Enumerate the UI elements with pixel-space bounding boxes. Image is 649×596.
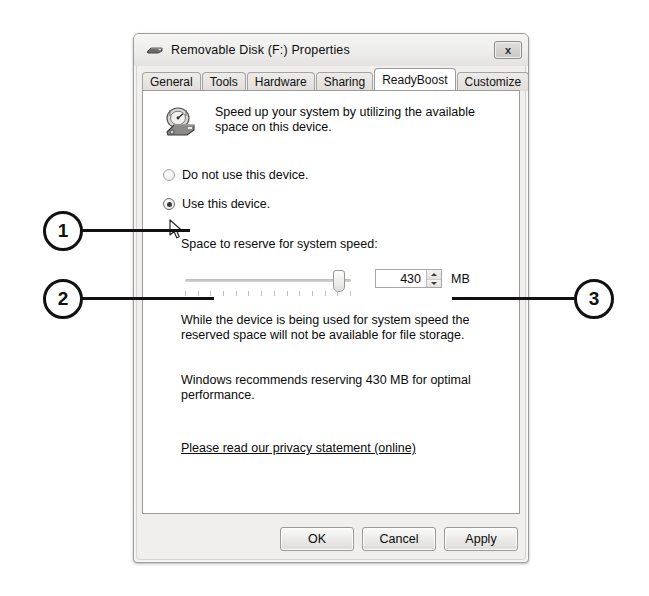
tab-hardware-label: Hardware	[255, 75, 307, 89]
tab-sharing-label: Sharing	[324, 75, 365, 89]
readyboost-header: Speed up your system by utilizing the av…	[161, 105, 501, 142]
space-spinner-value[interactable]: 430	[376, 270, 426, 287]
spin-up-icon[interactable]	[427, 270, 441, 279]
radio-use-device-label: Use this device.	[182, 197, 270, 211]
tab-tools-label: Tools	[210, 75, 238, 89]
readyboost-speed-icon	[161, 106, 201, 142]
readyboost-tab-panel: Speed up your system by utilizing the av…	[142, 90, 520, 514]
space-spinner-arrows	[426, 270, 441, 287]
callout-number-3: 3	[589, 288, 600, 310]
space-spinner[interactable]: 430	[375, 269, 442, 288]
spin-down-icon[interactable]	[427, 279, 441, 288]
tab-customize[interactable]: Customize	[457, 72, 530, 91]
close-icon: x	[505, 45, 511, 56]
dialog-button-bar: OK Cancel Apply	[142, 527, 518, 551]
cancel-button[interactable]: Cancel	[362, 527, 436, 551]
radio-use-device[interactable]: Use this device.	[163, 197, 501, 211]
tab-general-label: General	[150, 75, 193, 89]
title-bar: Removable Disk (F:) Properties x	[134, 34, 528, 66]
tab-customize-label: Customize	[465, 75, 522, 89]
space-slider-track[interactable]	[185, 279, 351, 282]
ok-button-label: OK	[308, 532, 326, 546]
apply-button-label: Apply	[465, 532, 496, 546]
callout-marker-1: 1	[43, 211, 83, 251]
ok-button[interactable]: OK	[280, 527, 354, 551]
privacy-statement-link[interactable]: Please read our privacy statement (onlin…	[181, 441, 416, 455]
radio-do-not-use-device-label: Do not use this device.	[182, 168, 308, 182]
tab-readyboost[interactable]: ReadyBoost	[374, 68, 455, 90]
space-to-reserve-label: Space to reserve for system speed:	[181, 237, 501, 251]
space-unit-label: MB	[451, 272, 470, 286]
tab-general[interactable]: General	[142, 72, 201, 91]
callout-marker-3: 3	[574, 279, 614, 319]
callout-marker-2: 2	[43, 279, 83, 319]
callout-number-2: 2	[58, 288, 69, 310]
space-spinner-group: 430 MB	[375, 269, 470, 288]
window-title: Removable Disk (F:) Properties	[171, 43, 494, 57]
close-button[interactable]: x	[494, 41, 522, 59]
tab-tools[interactable]: Tools	[202, 72, 246, 91]
reserve-space-controls: 430 MB	[181, 269, 501, 299]
tab-strip: General Tools Hardware Sharing ReadyBoos…	[142, 68, 520, 90]
recommendation-note: Windows recommends reserving 430 MB for …	[181, 373, 481, 403]
cancel-button-label: Cancel	[380, 532, 419, 546]
callout-line-2	[62, 297, 214, 300]
space-slider[interactable]	[181, 269, 353, 299]
removable-disk-icon	[146, 43, 164, 57]
readyboost-description: Speed up your system by utilizing the av…	[215, 105, 501, 135]
space-slider-thumb[interactable]	[333, 270, 345, 292]
tab-hardware[interactable]: Hardware	[247, 72, 315, 91]
apply-button[interactable]: Apply	[444, 527, 518, 551]
radio-do-not-use-device[interactable]: Do not use this device.	[163, 168, 501, 182]
callout-number-1: 1	[58, 220, 69, 242]
callout-line-3	[452, 297, 584, 300]
reserved-space-note: While the device is being used for syste…	[181, 313, 481, 343]
tab-readyboost-label: ReadyBoost	[382, 73, 447, 87]
radio-do-not-use-device-indicator[interactable]	[163, 169, 175, 181]
tab-sharing[interactable]: Sharing	[316, 72, 373, 91]
radio-use-device-indicator[interactable]	[163, 198, 175, 210]
